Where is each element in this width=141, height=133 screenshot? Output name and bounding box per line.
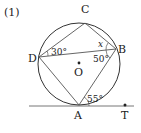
angle-arc-CBD bbox=[106, 43, 108, 50]
center-point-O bbox=[78, 62, 81, 65]
angle-label-x: x bbox=[98, 39, 103, 49]
angle-label-BAT: 55° bbox=[87, 94, 103, 104]
label-D: D bbox=[28, 52, 37, 65]
label-C: C bbox=[81, 3, 89, 16]
problem-label: (1) bbox=[4, 6, 20, 19]
segment-DA bbox=[39, 57, 79, 105]
geometry-diagram: (1) C B D O A T 30° x 50° 55° bbox=[0, 0, 141, 133]
point-T-dot bbox=[124, 104, 127, 107]
label-A: A bbox=[73, 109, 83, 122]
label-B: B bbox=[118, 43, 126, 56]
label-O: O bbox=[74, 66, 83, 79]
angle-label-DBA: 50° bbox=[93, 54, 109, 64]
label-T: T bbox=[121, 109, 129, 122]
angle-arc-CDB bbox=[47, 51, 48, 56]
angle-label-CDB: 30° bbox=[51, 47, 67, 57]
